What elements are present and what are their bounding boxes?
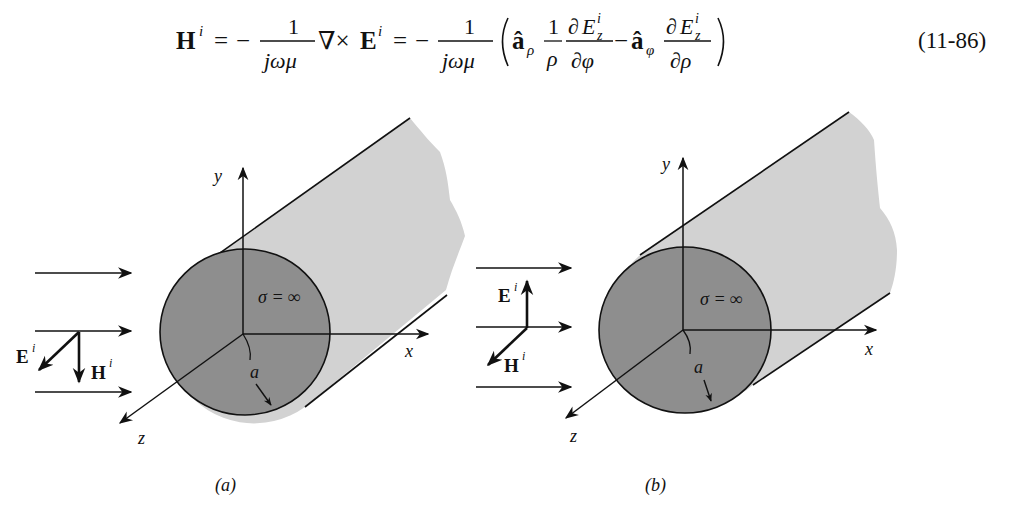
eq-Ez-2: E xyxy=(679,14,694,39)
eq-sub-phi: φ xyxy=(646,42,654,58)
eq-E-sup: i xyxy=(378,23,382,39)
sigma-label-a: σ = ∞ xyxy=(258,287,301,307)
equation-11-86: H i = − 1 jωμ ∇× E i = − 1 jωμ â ρ 1 ρ ∂… xyxy=(0,0,1023,80)
H-label-b: H xyxy=(504,355,519,376)
eq-minus-2: − xyxy=(415,27,429,54)
E-label-b: E xyxy=(498,285,511,306)
radius-label-a: a xyxy=(250,362,259,382)
eq-den-2: jωμ xyxy=(439,48,475,73)
eq-lhs-H: H xyxy=(176,27,196,54)
eq-sub-rho: ρ xyxy=(526,42,534,58)
eq-minus-1: − xyxy=(236,27,250,54)
panel-b: a σ = ∞ y x z E i H i xyxy=(476,112,897,446)
E-field-arrow-a xyxy=(39,332,79,370)
y-label-b: y xyxy=(660,154,670,174)
z-label-b: z xyxy=(569,426,577,446)
right-paren xyxy=(718,18,724,66)
eq-curl: ∇× xyxy=(318,27,350,54)
eq-E: E xyxy=(360,27,377,54)
E-sup-b: i xyxy=(514,280,517,294)
eq-num-2: 1 xyxy=(464,14,475,39)
z-label-a: z xyxy=(137,428,145,448)
figure-panels: a σ = ∞ y x z E i H i a σ = ∞ y x z xyxy=(0,80,1023,480)
eq-equals-1: = xyxy=(214,27,228,54)
eq-one: 1 xyxy=(548,14,559,39)
sigma-label-b: σ = ∞ xyxy=(700,289,743,309)
eq-Ez-sup-2: i xyxy=(695,11,699,26)
left-paren xyxy=(503,18,509,66)
eq-partial-2: ∂ xyxy=(666,14,677,39)
caption-b: (b) xyxy=(645,475,666,496)
eq-drho: ∂ρ xyxy=(670,48,691,73)
eq-num-1: 1 xyxy=(288,14,299,39)
eq-Ez-sup-1: i xyxy=(597,11,601,26)
x-label-a: x xyxy=(404,341,413,361)
radius-label-b: a xyxy=(694,357,703,377)
eq-rho: ρ xyxy=(546,46,558,71)
eq-minus-3: − xyxy=(614,27,628,54)
eq-a-hat-phi: â xyxy=(631,27,644,54)
eq-Ez-1: E xyxy=(581,14,596,39)
cylinder-face-a xyxy=(160,249,330,415)
H-label-a: H xyxy=(91,362,106,383)
x-label-b: x xyxy=(864,339,873,359)
eq-equals-2: = xyxy=(393,27,407,54)
y-label-a: y xyxy=(212,166,222,186)
panel-a: a σ = ∞ y x z E i H i xyxy=(16,118,465,448)
E-label-a: E xyxy=(16,346,29,367)
eq-partial-1: ∂ xyxy=(568,14,579,39)
caption-a: (a) xyxy=(215,475,236,496)
equation-body: H i = − 1 jωμ ∇× E i = − 1 jωμ â ρ 1 ρ ∂… xyxy=(176,11,724,73)
eq-den-1: jωμ xyxy=(261,48,297,73)
eq-dphi: ∂φ xyxy=(571,48,594,73)
H-sup-b: i xyxy=(522,349,525,363)
equation-number: (11-86) xyxy=(918,28,986,54)
eq-a-hat-rho: â xyxy=(512,27,525,54)
E-sup-a: i xyxy=(32,341,35,355)
eq-lhs-sup: i xyxy=(199,23,203,39)
H-sup-a: i xyxy=(109,356,112,370)
